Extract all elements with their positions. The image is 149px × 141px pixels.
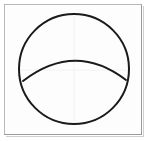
figure-panel: Circle with horizontal arc — [0, 0, 149, 141]
figure-drawing-canvas — [0, 0, 149, 141]
